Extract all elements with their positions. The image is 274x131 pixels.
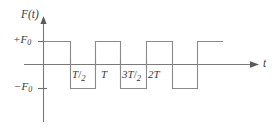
x-tick-label-two-T: 2T [148, 69, 160, 82]
x-tick-label-half-T: T/2 [72, 69, 85, 82]
y-value-label-negative-text: −F [14, 80, 28, 92]
arrow-right-icon [250, 61, 259, 67]
x-tick-label-half-T-den: 2 [81, 73, 85, 83]
arrow-up-icon [40, 16, 46, 24]
x-tick-label-three-half-T-den: 2 [137, 73, 141, 83]
x-tick-label-T: T [101, 69, 107, 82]
x-tick-label-three-half-T: 3T/2 [122, 69, 141, 82]
x-tick-label-two-T-num: 2T [148, 68, 160, 80]
square-wave-figure: F(t) t +F0 −F0 T/2 T 3T/2 2T [0, 0, 274, 131]
x-axis-label: t [263, 58, 266, 70]
y-value-label-positive: +F0 [13, 34, 31, 47]
x-tick-label-T-num: T [101, 68, 107, 80]
plot-canvas [0, 0, 274, 131]
x-tick-label-three-half-T-num: 3T [122, 68, 134, 80]
y-value-label-negative: −F0 [14, 81, 32, 94]
y-value-label-negative-subscript: 0 [28, 85, 32, 94]
y-value-label-positive-subscript: 0 [27, 38, 31, 47]
y-value-label-positive-text: +F [13, 33, 27, 45]
y-axis-label: F(t) [21, 9, 39, 21]
